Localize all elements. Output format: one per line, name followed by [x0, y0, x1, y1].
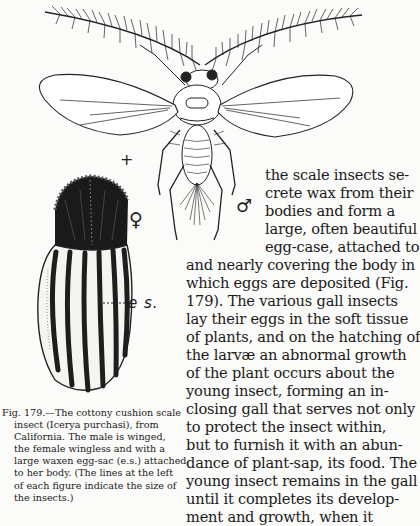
caption-line: California. The male is winged, — [2, 431, 162, 443]
caption-line: the insects.) — [2, 492, 162, 504]
text-line: 179). The various gall insects — [186, 292, 398, 310]
caption-line: Fig. 179.—The cottony cushion scale — [2, 407, 162, 419]
text-line: and nearly covering the body in — [186, 256, 415, 274]
text-line: the scale insects se- — [265, 166, 409, 184]
text-line: the larvæ an abnormal growth — [186, 346, 407, 364]
text-line: bodies and form a — [265, 202, 395, 220]
egg-sac-label: e s. — [128, 294, 159, 312]
text-line: large, often beautiful — [265, 220, 417, 238]
caption-line: large waxen egg-sac (e.s.) attached — [2, 455, 162, 467]
text-line: closing gall that serves not only — [186, 400, 415, 418]
text-line: dance of plant-sap, its food. The — [186, 454, 417, 472]
male-symbol: ♂ — [236, 195, 252, 216]
text-line: of plants, and on the hatching of — [186, 328, 420, 346]
text-line: which eggs are deposited (Fig. — [186, 274, 408, 292]
male-size-mark: + — [120, 150, 133, 169]
female-symbol: ♀ — [129, 208, 143, 230]
text-line: but to furnish it with an abun- — [186, 436, 402, 454]
text-line: of the plant occurs about the — [186, 364, 394, 382]
caption-line: insect (Icerya purchasi), from — [2, 419, 162, 431]
caption-line: the female wingless and with a — [2, 443, 162, 455]
female-insect-drawing — [38, 176, 132, 390]
caption-line: of each figure indicate the size of — [2, 480, 162, 492]
text-line: young insect remains in the gall — [186, 472, 417, 490]
text-line: crete wax from their — [265, 184, 413, 202]
figure-caption: Fig. 179.—The cottony cushion scale inse… — [2, 407, 162, 504]
text-line: ment and growth, when it — [186, 508, 373, 526]
caption-line: to her body. (The lines at the left — [2, 467, 162, 479]
text-line: to protect the insect within, — [186, 418, 386, 436]
text-line: young insect, forming an in- — [186, 382, 389, 400]
text-line: lay their eggs in the soft tissue — [186, 310, 408, 328]
text-line: egg-case, attached to — [265, 238, 419, 256]
text-line: until it completes its develop- — [186, 490, 399, 508]
